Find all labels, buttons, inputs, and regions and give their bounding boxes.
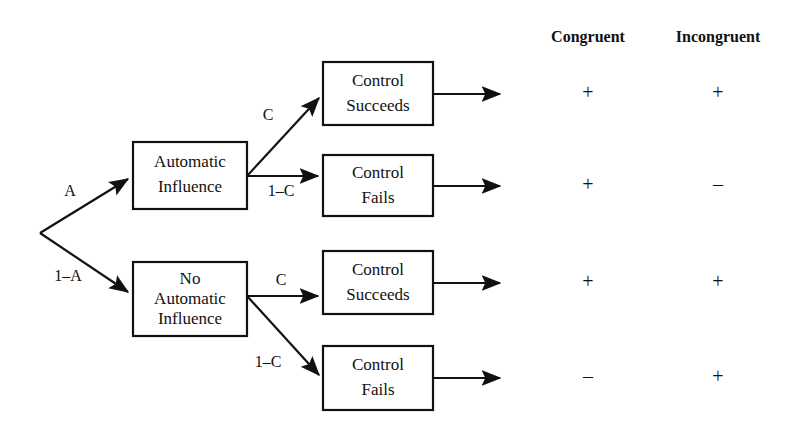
outcome-incongruent-row-2: – — [712, 173, 724, 195]
edge-a: A — [40, 179, 128, 233]
node-label-line: Influence — [158, 177, 222, 196]
outcome-incongruent-row-3: + — [712, 270, 723, 292]
edge-one-minus-c-upper: 1–C — [247, 176, 318, 199]
outcome-congruent-row-3: + — [582, 270, 593, 292]
edge-c-upper: C — [247, 98, 319, 176]
node-no-automatic-influence[interactable]: No Automatic Influence — [133, 262, 247, 336]
node-label-line: Automatic — [154, 152, 226, 171]
outcome-congruent-row-1: + — [582, 81, 593, 103]
edge-label-a: A — [64, 182, 76, 199]
node-label-line: Automatic — [154, 289, 226, 308]
node-automatic-influence[interactable]: Automatic Influence — [133, 142, 247, 209]
node-label-line: Fails — [361, 188, 394, 207]
node-control-succeeds-2[interactable]: Control Succeeds — [323, 251, 433, 314]
node-control-fails-2[interactable]: Control Fails — [323, 346, 433, 410]
column-header-incongruent: Incongruent — [676, 28, 761, 46]
node-control-fails-1[interactable]: Control Fails — [323, 155, 433, 216]
node-label-line: Succeeds — [346, 96, 409, 115]
edge-c-lower: C — [247, 271, 318, 296]
node-control-succeeds-1[interactable]: Control Succeeds — [323, 62, 433, 125]
outcome-incongruent-row-1: + — [712, 81, 723, 103]
edge-label-one-minus-a: 1–A — [54, 267, 82, 284]
node-label-line: Control — [352, 71, 404, 90]
node-label-line: Influence — [158, 309, 222, 328]
edge-label-one-minus-c-upper: 1–C — [268, 182, 295, 199]
outcome-congruent-row-2: + — [582, 173, 593, 195]
node-label-line: Control — [352, 163, 404, 182]
node-label-line: Control — [352, 355, 404, 374]
outcome-congruent-row-4: – — [582, 365, 594, 387]
node-label-line: Control — [352, 260, 404, 279]
diagram-canvas: Congruent Incongruent Automatic Influenc… — [0, 0, 808, 435]
edge-label-c-lower: C — [276, 271, 287, 288]
processing-tree-svg: Congruent Incongruent Automatic Influenc… — [0, 0, 808, 435]
edge-label-c-upper: C — [263, 106, 274, 123]
node-label-line: No — [180, 269, 201, 288]
node-label-line: Fails — [361, 380, 394, 399]
edge-label-one-minus-c-lower: 1–C — [255, 353, 282, 370]
outcome-incongruent-row-4: + — [712, 365, 723, 387]
edge-one-minus-a: 1–A — [40, 233, 128, 292]
column-header-congruent: Congruent — [551, 28, 625, 46]
node-label-line: Succeeds — [346, 285, 409, 304]
edge-one-minus-c-lower: 1–C — [247, 296, 319, 375]
